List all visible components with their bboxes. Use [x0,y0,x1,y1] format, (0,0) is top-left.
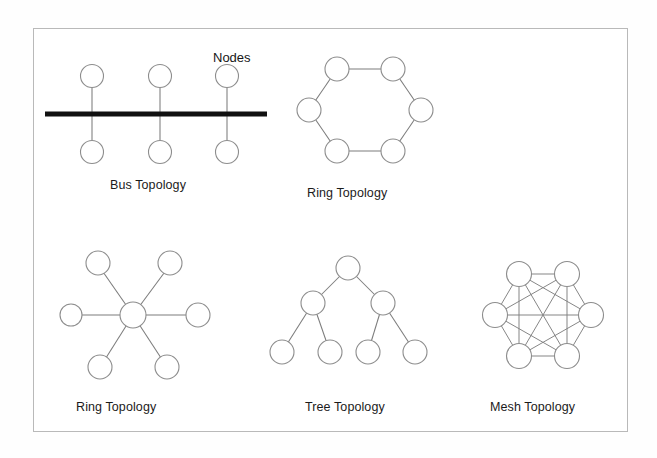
caption-ring-topology: Ring Topology [307,186,387,200]
caption-mesh-topology: Mesh Topology [490,400,575,414]
caption-star-topology: Ring Topology [76,400,156,414]
topology-figure-page: Nodes Bus Topology Ring Topology Ring To… [0,0,657,458]
figure-border-frame [33,28,628,432]
nodes-annotation-label: Nodes [213,50,251,65]
caption-tree-topology: Tree Topology [305,400,385,414]
caption-bus-topology: Bus Topology [110,178,186,192]
